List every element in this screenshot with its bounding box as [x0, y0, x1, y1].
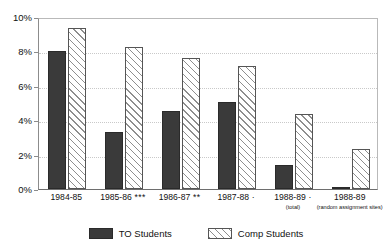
x-axis-label-text: 1985-86: [100, 192, 132, 202]
y-axis-tick-label: 4%: [8, 116, 32, 126]
y-axis-tick-mark: [34, 190, 38, 191]
bar-comp-students: [352, 149, 370, 189]
bar-comp-students: [238, 66, 256, 189]
x-axis-labels: 1984-851985-86 ***1986-87 **1987-88 ·198…: [38, 192, 378, 226]
y-axis-tick-label: 2%: [8, 151, 32, 161]
x-axis-label-text: 1987-88: [218, 192, 250, 202]
bar-to-students: [162, 111, 180, 189]
x-axis-sublabel: (random assignment sites): [307, 203, 392, 211]
legend-label: TO Students: [119, 229, 172, 239]
legend-item: Comp Students: [208, 228, 303, 239]
y-axis-tick-label: 8%: [8, 47, 32, 57]
bar-comp-students: [295, 114, 313, 189]
bar-comp-students: [68, 28, 86, 189]
x-axis-label-text: 1984-85: [51, 192, 83, 202]
bar-chart: 0%2%4%6%8%10% 1984-851985-86 ***1986-87 …: [0, 0, 392, 251]
x-axis-label-text: 1988-89: [274, 192, 306, 202]
bar-to-students: [48, 51, 66, 189]
bar-comp-students: [182, 58, 200, 189]
y-axis-tick-label: 6%: [8, 82, 32, 92]
plot-area: [38, 18, 378, 190]
bar-groups: [39, 19, 377, 189]
bar-to-students: [275, 165, 293, 189]
legend-item: TO Students: [89, 228, 172, 239]
legend-swatch-comp-students: [208, 228, 232, 239]
bar-to-students: [218, 102, 236, 189]
chart-legend: TO StudentsComp Students: [0, 228, 392, 239]
x-axis-label-text: 1986-87: [159, 192, 191, 202]
y-axis-tick-label: 10%: [8, 13, 32, 23]
legend-swatch-to-students: [89, 228, 113, 239]
bar-to-students: [332, 187, 350, 189]
x-axis-label-text: 1988-89: [334, 192, 366, 202]
bar-comp-students: [125, 47, 143, 189]
legend-label: Comp Students: [238, 229, 303, 239]
bar-to-students: [105, 132, 123, 189]
x-axis-label: 1988-89(random assignment sites): [307, 192, 392, 211]
